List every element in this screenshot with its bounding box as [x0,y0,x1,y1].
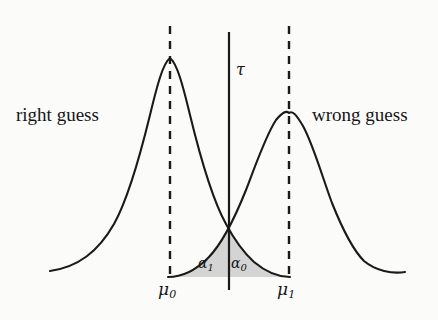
mu0-symbol: μ [158,279,169,299]
alpha1-label: α1 [198,256,214,273]
alpha1-subscript: 1 [207,262,213,273]
distribution-figure: right guess wrong guess τ μ0 μ1 α1 α0 [0,0,438,320]
tau-label: τ [236,62,245,78]
alpha0-subscript: 0 [240,262,246,273]
mu1-symbol: μ [277,279,288,299]
figure-canvas [0,0,438,320]
wrong-guess-curve [168,112,405,277]
wrong-guess-label: wrong guess [312,105,408,124]
alpha0-label: α0 [231,256,247,273]
mu1-label: μ1 [277,281,295,300]
alpha0-shaded-region [190,115,290,277]
right-guess-label: right guess [16,105,99,124]
mu0-label: μ0 [158,281,176,300]
mu0-subscript: 0 [169,288,176,301]
mu1-subscript: 1 [288,288,295,301]
